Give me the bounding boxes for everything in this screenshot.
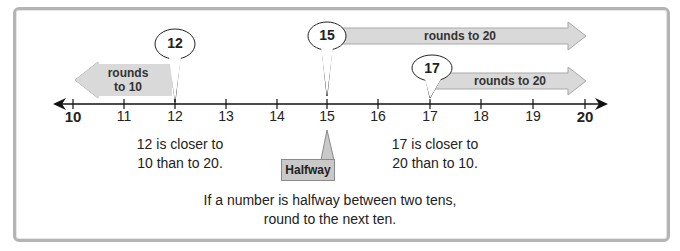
callout-12-number: 12	[155, 35, 195, 51]
note-12-line2: 10 than to 20.	[120, 154, 240, 173]
rule-line1: If a number is halfway between two tens,	[180, 191, 480, 210]
note-12-line1: 12 is closer to	[120, 135, 240, 154]
tick-label-18: 18	[461, 108, 501, 124]
rule-line2: round to the next ten.	[180, 210, 480, 229]
tick-label-16: 16	[358, 108, 398, 124]
callout-15-number: 15	[307, 27, 347, 43]
arrow-label-17: rounds to 20	[460, 74, 560, 88]
arrow-label-15: rounds to 20	[400, 29, 520, 43]
halfway-label: Halfway	[281, 159, 335, 181]
tick-label-13: 13	[206, 108, 246, 124]
halfway-rule: If a number is halfway between two tens,…	[180, 191, 480, 229]
tick-label-14: 14	[257, 108, 297, 124]
arrow-label-line1: rounds	[98, 66, 158, 80]
arrow-label-line2: to 10	[98, 80, 158, 94]
tick-label-12: 12	[155, 108, 195, 124]
tick-label-11: 11	[104, 108, 144, 124]
arrow-label-rounds-to-10: rounds to 10	[98, 66, 158, 94]
note-12-closer: 12 is closer to 10 than to 20.	[120, 135, 240, 173]
note-17-line2: 20 than to 10.	[375, 154, 495, 173]
tick-label-10: 10	[53, 108, 93, 125]
tick-label-20: 20	[565, 108, 605, 125]
callout-17-number: 17	[412, 60, 452, 76]
note-17-closer: 17 is closer to 20 than to 10.	[375, 135, 495, 173]
note-17-line1: 17 is closer to	[375, 135, 495, 154]
tick-label-19: 19	[513, 108, 553, 124]
tick-label-17: 17	[410, 108, 450, 124]
halfway-pointer	[321, 130, 334, 160]
tick-label-15: 15	[307, 108, 347, 124]
